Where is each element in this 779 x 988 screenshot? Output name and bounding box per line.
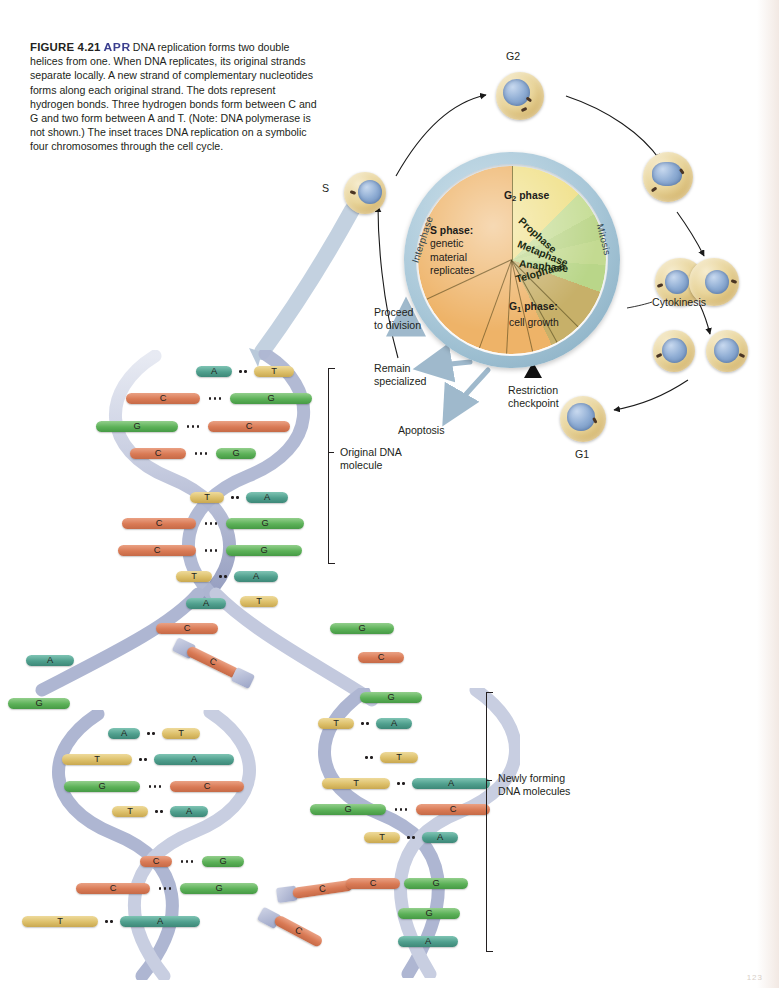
hydrogen-bonds <box>180 421 206 432</box>
label-g2-phase: G2 phase <box>504 190 549 203</box>
base-left: C <box>118 545 196 556</box>
base-left: G <box>8 698 70 709</box>
daughter-helix-left-backbone <box>38 710 288 980</box>
base-right: T <box>380 752 418 763</box>
base-left: G <box>360 692 422 703</box>
base-right: G <box>230 393 312 404</box>
base-left: C <box>346 878 400 889</box>
hydrogen-bonds <box>402 832 420 843</box>
figure-canvas: FIGURE 4.21APRDNA replication forms two … <box>0 0 779 988</box>
base-left: A <box>26 655 74 666</box>
cell-label-g2: G2 <box>506 50 520 63</box>
hydrogen-bonds <box>356 718 374 729</box>
figure-caption: FIGURE 4.21APRDNA replication forms two … <box>30 40 322 154</box>
cell-mitosis <box>643 152 693 202</box>
bracket-newly-forming-dna <box>486 692 487 952</box>
hydrogen-bonds <box>134 754 152 765</box>
base-right: G <box>180 883 258 894</box>
hydrogen-bonds <box>142 728 160 739</box>
base-right: G <box>226 545 302 556</box>
label-newly-forming-dna: Newly forming DNA molecules <box>498 772 570 798</box>
cell-nucleus-right <box>705 270 729 294</box>
base-right: A <box>154 754 234 765</box>
base-right: A <box>412 778 490 789</box>
hydrogen-bonds <box>392 778 410 789</box>
hydrogen-bonds <box>360 752 378 763</box>
base-left: C <box>126 393 200 404</box>
caption-text: DNA replication forms two double helices… <box>30 41 317 152</box>
cell-label-s: S <box>322 182 329 195</box>
label-cytokinesis: Cytokinesis <box>652 296 706 309</box>
base-right: G <box>404 878 468 889</box>
base-right: G <box>216 448 256 459</box>
base-left: A <box>186 598 226 609</box>
hydrogen-bonds <box>198 545 224 556</box>
cell-nucleus <box>503 79 530 106</box>
page-edge-shading <box>757 0 779 988</box>
hydrogen-bonds <box>152 883 178 894</box>
base-right: C <box>170 781 244 792</box>
base-left: C <box>122 518 196 529</box>
base-right: T <box>254 366 294 377</box>
base-right: C <box>416 804 490 815</box>
hydrogen-bonds <box>150 806 168 817</box>
base-left: G <box>310 804 386 815</box>
label-g1-phase: G1 phase: cell growth <box>509 300 559 330</box>
bracket-original-dna <box>328 368 329 564</box>
base-right: G <box>226 518 304 529</box>
cell-nucleus <box>358 180 382 204</box>
apr-badge: APR <box>103 40 130 54</box>
hydrogen-bonds <box>226 492 244 503</box>
base-right: T <box>240 596 278 607</box>
base-right: C <box>208 421 290 432</box>
base-left: T <box>318 718 354 729</box>
hydrogen-bonds <box>198 518 224 529</box>
hydrogen-bonds <box>188 448 214 459</box>
figure-number: FIGURE 4.21 <box>30 41 101 53</box>
base-left: A <box>398 936 458 947</box>
cell-cycle-wheel: G2 phase S phase: genetic material repli… <box>404 152 620 368</box>
cell-g2-phase <box>496 72 544 120</box>
annotation-proceed-to-division: Proceed to division <box>374 306 421 332</box>
base-left: C <box>140 856 172 867</box>
hydrogen-bonds <box>234 366 252 377</box>
cell-s-phase <box>344 172 386 214</box>
bracket-pointer <box>486 780 492 781</box>
hydrogen-bonds <box>388 804 414 815</box>
page-number: 123 <box>747 973 763 982</box>
label-original-dna-molecule: Original DNA molecule <box>340 446 402 472</box>
base-right: T <box>162 728 200 739</box>
base-right: A <box>170 806 208 817</box>
hydrogen-bonds <box>142 781 168 792</box>
base-left: T <box>62 754 132 765</box>
base-left: A <box>108 728 140 739</box>
hydrogen-bonds <box>100 916 118 927</box>
base-left: G <box>64 781 140 792</box>
base-left: G <box>398 908 460 919</box>
hydrogen-bonds <box>174 856 200 867</box>
base-left: T <box>190 492 224 503</box>
cell-chromosomes <box>652 162 682 186</box>
base-right: A <box>422 832 458 843</box>
base-right: A <box>246 492 288 503</box>
hydrogen-bonds <box>202 393 228 404</box>
base-right: G <box>330 623 394 634</box>
base-right: A <box>376 718 412 729</box>
cell-nucleus-left <box>665 270 689 294</box>
base-left: A <box>196 366 232 377</box>
label-s-phase: S phase: genetic material replicates <box>430 224 474 278</box>
base-left: T <box>22 916 98 927</box>
base-left: C <box>130 448 186 459</box>
base-left: C <box>76 883 150 894</box>
dna-replication-diagram: A T C G G C C G T A C G <box>0 340 779 980</box>
base-left: T <box>364 832 400 843</box>
base-right: A <box>120 916 200 927</box>
bracket-pointer <box>328 452 334 453</box>
base-left: T <box>322 778 390 789</box>
base-left: T <box>112 806 148 817</box>
base-left: G <box>96 421 178 432</box>
original-helix-backbone <box>60 350 360 610</box>
base-right: G <box>202 856 244 867</box>
base-right: C <box>358 652 404 663</box>
base-left: C <box>156 623 218 634</box>
